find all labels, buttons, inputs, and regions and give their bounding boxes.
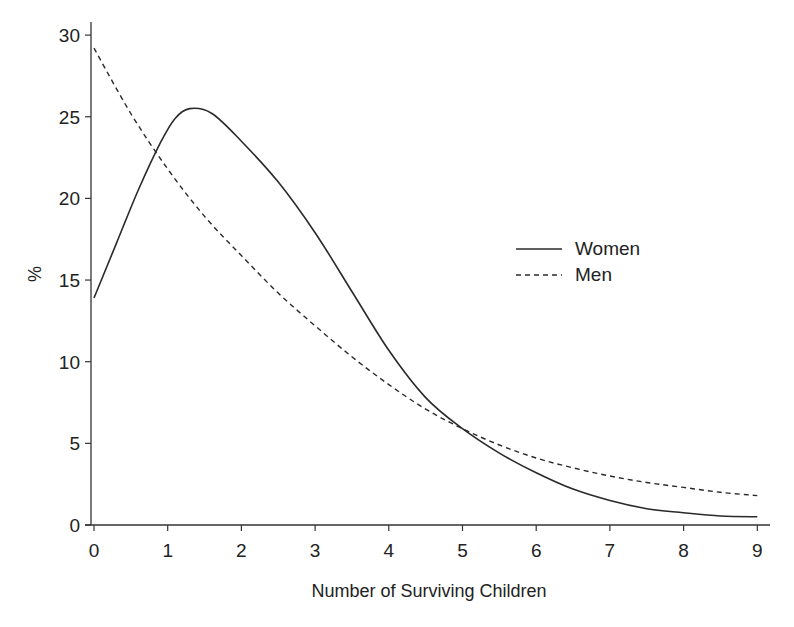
chart-canvas: 051015202530 0123456789 Number of Surviv… xyxy=(0,0,794,627)
series-line-men xyxy=(94,48,757,495)
y-tick-label: 20 xyxy=(59,188,80,209)
y-tick-label: 15 xyxy=(59,270,80,291)
x-tick-label: 1 xyxy=(162,540,173,561)
legend: Women Men xyxy=(516,238,640,285)
y-tick-label: 30 xyxy=(59,25,80,46)
x-axis-title: Number of Surviving Children xyxy=(311,581,546,601)
x-tick-label: 4 xyxy=(384,540,395,561)
y-axis-title: % xyxy=(25,266,45,282)
x-tick-label: 3 xyxy=(310,540,321,561)
y-tick-label: 5 xyxy=(69,433,80,454)
y-axis: 051015202530 xyxy=(59,22,91,536)
x-tick-label: 6 xyxy=(531,540,542,561)
x-tick-label: 7 xyxy=(605,540,616,561)
legend-label-women: Women xyxy=(575,238,640,259)
y-tick-label: 25 xyxy=(59,107,80,128)
series-layer xyxy=(94,48,757,517)
x-tick-label: 5 xyxy=(457,540,468,561)
x-tick-label: 8 xyxy=(678,540,689,561)
x-axis: 0123456789 xyxy=(85,525,770,561)
x-tick-label: 0 xyxy=(89,540,100,561)
y-tick-label: 0 xyxy=(69,515,80,536)
x-tick-label: 9 xyxy=(752,540,763,561)
series-line-women xyxy=(94,108,757,517)
y-tick-label: 10 xyxy=(59,352,80,373)
legend-label-men: Men xyxy=(575,264,612,285)
x-tick-label: 2 xyxy=(236,540,247,561)
